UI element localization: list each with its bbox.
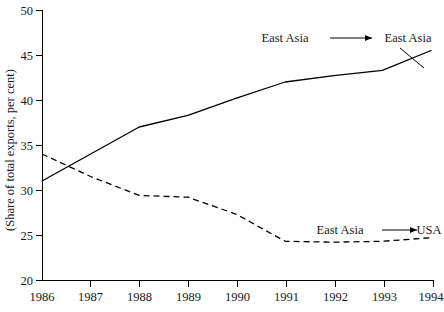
annotation-top-source-label: East Asia [262, 31, 309, 45]
annotation-top-leader-line [400, 48, 424, 68]
annotation-bottom-target-label: USA [416, 223, 441, 237]
y-tick-label: 40 [21, 94, 34, 108]
annotation-east-asia-usa: East Asia USA [317, 223, 442, 237]
y-axis-title: (Share of total exports, per cent) [3, 69, 17, 231]
x-tick-label: 1988 [127, 290, 152, 304]
annotation-top-target-label: East Asia [385, 31, 432, 45]
y-tick-label: 35 [21, 139, 34, 153]
x-axis-tick-labels: 1986 1987 1988 1989 1990 1991 1992 1993 … [30, 290, 444, 304]
x-tick-label: 1993 [372, 290, 397, 304]
y-tick-label: 50 [21, 4, 34, 18]
x-tick-label: 1991 [274, 290, 299, 304]
annotation-east-asia-east-asia: East Asia East Asia [262, 31, 432, 68]
chart-canvas: 50 45 40 35 30 25 20 1986 1987 1988 1989… [0, 0, 444, 312]
annotation-top-arrow-head-icon [365, 35, 372, 41]
y-axis-tick-labels: 50 45 40 35 30 25 20 [21, 4, 34, 288]
x-tick-label: 1994 [419, 290, 444, 304]
series-line-east-asia-east-asia [42, 51, 431, 182]
x-tick-label: 1986 [30, 290, 55, 304]
x-tick-label: 1989 [176, 290, 201, 304]
x-tick-label: 1990 [225, 290, 250, 304]
y-tick-label: 30 [21, 184, 34, 198]
series-line-east-asia-usa [42, 154, 431, 242]
x-tick-label: 1992 [323, 290, 348, 304]
x-axis-ticks [91, 281, 434, 288]
y-tick-label: 20 [21, 274, 34, 288]
annotation-bottom-source-label: East Asia [317, 223, 364, 237]
x-tick-label: 1987 [78, 290, 103, 304]
y-tick-label: 25 [21, 229, 34, 243]
y-axis-ticks [36, 11, 43, 281]
y-tick-label: 45 [21, 49, 34, 63]
line-chart: 50 45 40 35 30 25 20 1986 1987 1988 1989… [0, 0, 444, 312]
